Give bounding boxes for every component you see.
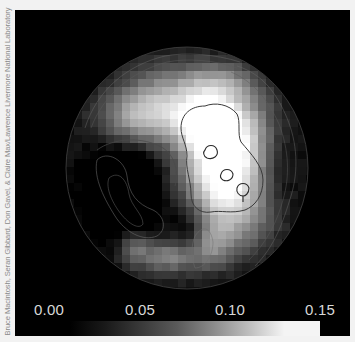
colorbar-tick-0: 0.00: [34, 301, 64, 318]
disk-intensity-map: [15, 10, 350, 336]
intensity-cells: [66, 47, 315, 296]
image-credit: Bruce Macintosh, Seran Gibbard, Don Gave…: [0, 0, 15, 342]
colorbar-tick-3: 0.15: [305, 301, 335, 318]
colorbar-tick-2: 0.10: [215, 301, 245, 318]
colorbar-tick-1: 0.05: [125, 301, 155, 318]
image-panel: 0.00 0.05 0.10 0.15: [15, 10, 350, 336]
credit-text: Bruce Macintosh, Seran Gibbard, Don Gave…: [3, 7, 12, 335]
colorbar: [70, 321, 320, 336]
